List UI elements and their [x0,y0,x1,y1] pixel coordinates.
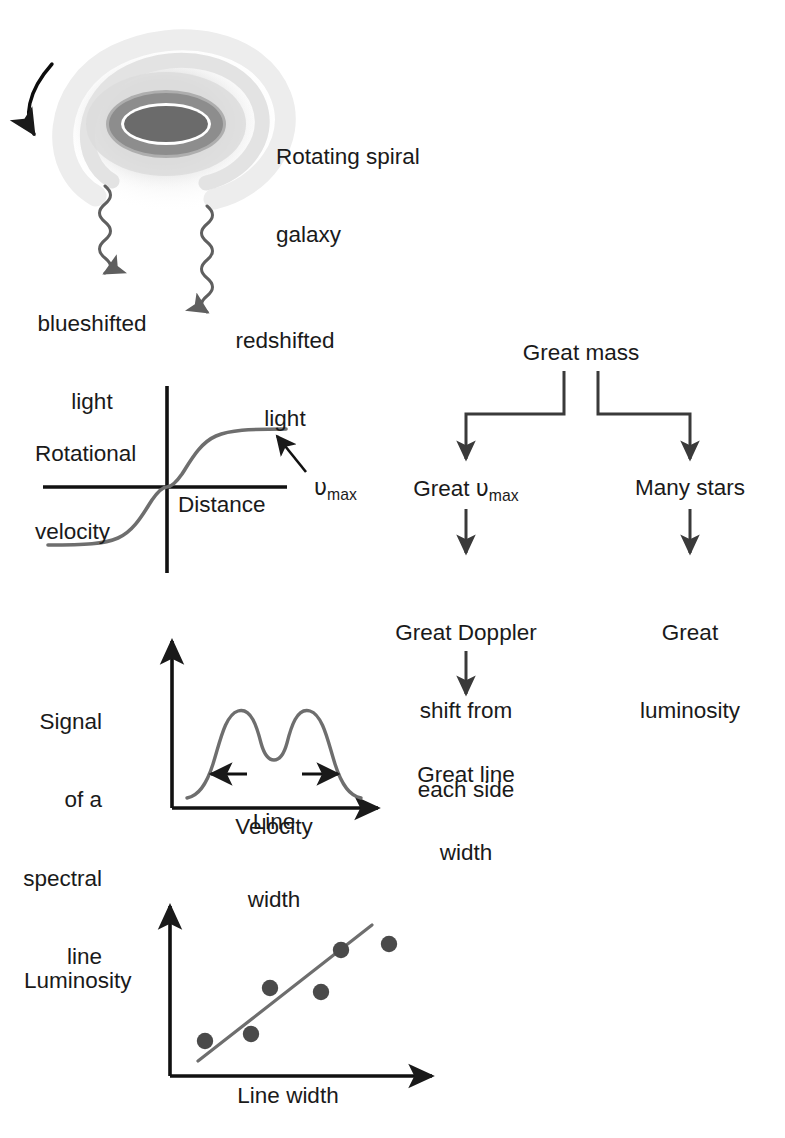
rotational-velocity-line2: velocity [35,519,136,545]
doppler-line1: Great Doppler [395,620,536,646]
scatter-point [313,984,329,1000]
flow-node-great-vmax: Great υmax [413,475,519,502]
line-width-annotation: Line width [248,757,301,966]
luminosity-line2: luminosity [640,698,740,724]
scatter-point [197,1033,213,1049]
scatter-point [333,942,349,958]
great-vmax-subscript: max [489,487,519,504]
edge-great-mass-to-many-stars [598,371,690,459]
signal-label-line3: spectral [23,866,102,892]
scatter-point [262,980,278,996]
signal-label-line4: line [23,944,102,970]
galaxy-caption: Rotating spiral galaxy [276,92,420,301]
line-width-annotation-line2: width [248,887,301,913]
redshifted-label-line2: light [236,406,335,432]
signal-label-line1: Signal [23,709,102,735]
galaxy-caption-line1: Rotating spiral [276,144,420,170]
flow-node-many-stars: Many stars [635,475,745,501]
flow-node-great-mass: Great mass [523,340,639,366]
redshifted-light-label: redshifted light [236,276,335,485]
tully-fisher-scatter-chart [170,906,432,1076]
edge-great-mass-to-great-vmax [466,371,564,459]
distance-axis-label: Distance [178,492,266,518]
line-width-axis-label: Line width [237,1083,338,1109]
redshifted-light-ray [202,206,213,312]
vmax-subscript: max [327,486,357,503]
redshifted-label-line1: redshifted [236,328,335,354]
scatter-point [243,1026,259,1042]
flow-node-great-luminosity: Great luminosity [640,568,740,777]
rotation-direction-arrow [29,64,52,134]
great-line-width-line1: Great line [417,762,515,788]
luminosity-axis-label: Luminosity [24,968,132,994]
rotational-velocity-line1: Rotational [35,441,136,467]
signal-label-line2: of a [23,787,102,813]
luminosity-line1: Great [640,620,740,646]
great-vmax-symbol: υ [476,475,489,501]
vmax-annotation-label: υmax [314,474,357,501]
rotational-velocity-axis-label: Rotational velocity [35,389,136,598]
scatter-point [381,936,397,952]
diagram-canvas: Rotating spiral galaxy blueshifted light… [0,0,785,1138]
blueshifted-label-line1: blueshifted [38,311,147,337]
flow-node-great-line-width: Great line width [417,710,515,919]
great-vmax-prefix: Great [413,476,476,501]
velocity-axis-label: Velocity [235,814,313,840]
galaxy-caption-line2: galaxy [276,222,420,248]
vmax-symbol: υ [314,474,327,500]
great-line-width-line2: width [417,840,515,866]
spiral-galaxy-illustration [54,37,286,213]
